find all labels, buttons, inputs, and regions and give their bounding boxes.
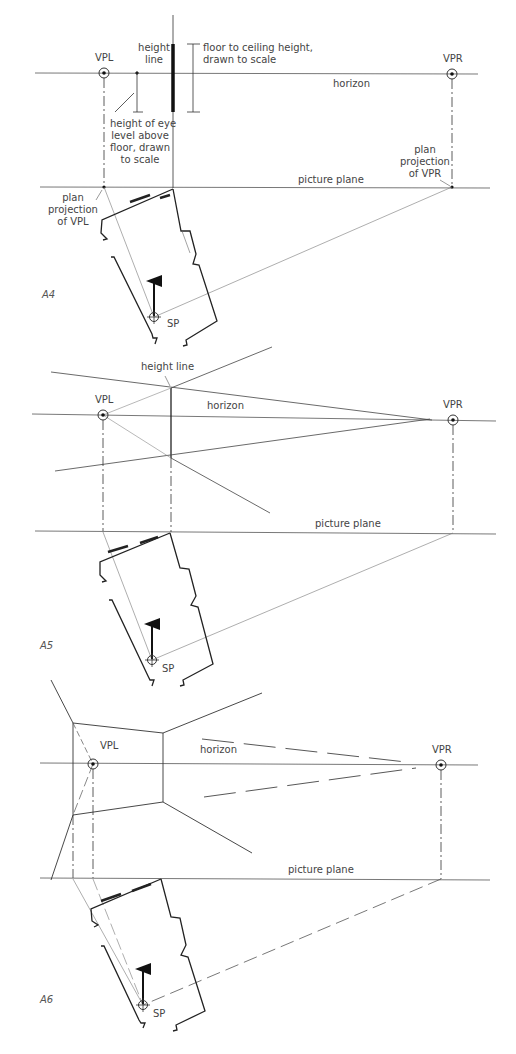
picture-plane-label: picture plane (298, 174, 364, 186)
plan-projection-vpl-label: plan projection of VPL (48, 192, 98, 228)
height-line-label-1: height (137, 42, 171, 54)
floor-ceiling-label-2: drawn to scale (203, 54, 313, 66)
vpr-label: VPR (443, 399, 463, 411)
floor-ceiling-label-1: floor to ceiling height, (203, 42, 313, 54)
figure-a6 (40, 680, 490, 1031)
eye-level-label-4: to scale (110, 154, 170, 166)
vpl-label: VPL (95, 52, 113, 64)
vpl-marker-icon (88, 759, 98, 769)
back-wall (51, 680, 262, 880)
sight-line-right (154, 187, 452, 317)
plan-proj-vpl-2: projection (48, 204, 98, 216)
sp-label: SP (162, 663, 174, 675)
horizon-line (35, 73, 478, 74)
plan-proj-vpr-2: projection (400, 156, 450, 168)
floor-right-line (55, 419, 430, 471)
sp-marker-icon (147, 310, 161, 324)
room-plan (91, 879, 205, 1031)
sight-line-right-dashed (143, 879, 441, 1005)
plan-proj-vpl-1: plan (48, 192, 98, 204)
picture-plane-line (40, 187, 490, 188)
picture-plane-line (35, 531, 496, 534)
height-line-label: height line (137, 42, 171, 66)
figure-label-a5: A5 (40, 640, 53, 652)
sp-marker-icon (136, 998, 150, 1012)
horizon-label: horizon (333, 78, 370, 90)
eye-level-label-1: height of eye (110, 118, 170, 130)
plan-proj-vpr-3: of VPR (400, 168, 450, 180)
plan-projection-vpr-label: plan projection of VPR (400, 144, 450, 180)
figure-label-a4: A4 (42, 289, 55, 301)
floor-left-line (171, 458, 270, 513)
vpr-label: VPR (432, 744, 452, 756)
eye-level-bracket (115, 72, 143, 112)
vpl-label: VPL (100, 740, 118, 752)
sp-label: SP (167, 318, 179, 330)
eye-level-label-2: level above (110, 130, 170, 142)
picture-plane-label: picture plane (315, 518, 381, 530)
sp-label: SP (153, 1008, 165, 1020)
room-plan (100, 533, 213, 686)
height-line-label-2: line (137, 54, 171, 66)
picture-plane-label: picture plane (288, 864, 354, 876)
horizon-line (40, 763, 478, 765)
plan-proj-vpl-3: of VPL (48, 216, 98, 228)
plan-proj-vpr-1: plan (400, 144, 450, 156)
sight-line-left (104, 187, 154, 317)
vpr-label: VPR (443, 53, 463, 65)
horizon-label: horizon (207, 400, 244, 412)
floor-ceiling-label: floor to ceiling height, drawn to scale (203, 42, 313, 66)
sp-marker-icon (145, 653, 159, 667)
floor-dashed-line (204, 768, 416, 797)
horizon-label: horizon (200, 744, 237, 756)
floor-ceiling-bracket (187, 44, 200, 112)
eye-level-label: height of eye level above floor, drawn t… (110, 118, 170, 166)
eye-level-label-3: floor, drawn (110, 142, 170, 154)
room-plan (101, 189, 217, 346)
figure-label-a6: A6 (40, 994, 53, 1006)
picture-plane-line (40, 878, 490, 880)
vpl-label: VPL (95, 394, 113, 406)
height-line-label: height line (141, 361, 194, 373)
